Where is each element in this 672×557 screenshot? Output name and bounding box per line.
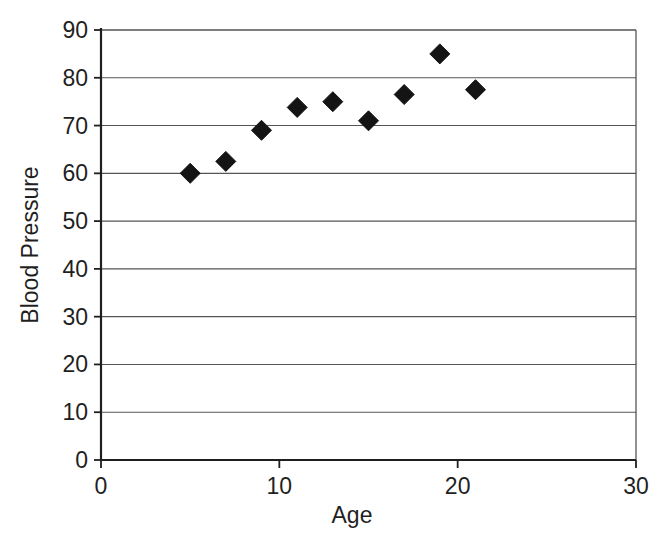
- y-tick-label-50: 50: [62, 208, 88, 234]
- y-tick-label-0: 0: [75, 447, 88, 473]
- x-tick-label-0: 0: [95, 473, 108, 499]
- chart-canvas: 0102030405060708090 0102030 Blood Pressu…: [0, 0, 672, 557]
- y-tick-label-30: 30: [62, 304, 88, 330]
- y-axis-tick-labels: 0102030405060708090: [62, 17, 88, 473]
- data-point-marker: [287, 97, 307, 117]
- y-tick-label-20: 20: [62, 351, 88, 377]
- x-tick-label-20: 20: [445, 473, 471, 499]
- x-axis-tick-labels: 0102030: [95, 473, 649, 499]
- data-point-marker: [180, 163, 200, 183]
- y-tick-label-40: 40: [62, 256, 88, 282]
- y-tick-label-80: 80: [62, 65, 88, 91]
- y-tick-label-60: 60: [62, 160, 88, 186]
- data-point-marker: [323, 92, 343, 112]
- data-point-marker: [252, 120, 272, 140]
- y-tick-label-10: 10: [62, 399, 88, 425]
- x-tick-label-30: 30: [623, 473, 649, 499]
- scatter-plot-figure: 0102030405060708090 0102030 Blood Pressu…: [0, 0, 672, 557]
- x-tick-label-10: 10: [267, 473, 293, 499]
- y-tick-label-90: 90: [62, 17, 88, 43]
- x-axis-tick-group: [101, 460, 636, 468]
- data-point-marker: [430, 44, 450, 64]
- x-axis-title: Age: [332, 502, 373, 528]
- data-point-marker: [466, 80, 486, 100]
- y-axis-title: Blood Pressure: [17, 166, 43, 323]
- gridline-group: [101, 30, 636, 412]
- plot-frame: [101, 28, 636, 460]
- data-point-marker: [359, 111, 379, 131]
- data-point-marker: [216, 151, 236, 171]
- y-tick-label-70: 70: [62, 113, 88, 139]
- data-point-group: [180, 44, 485, 183]
- data-point-marker: [394, 85, 414, 105]
